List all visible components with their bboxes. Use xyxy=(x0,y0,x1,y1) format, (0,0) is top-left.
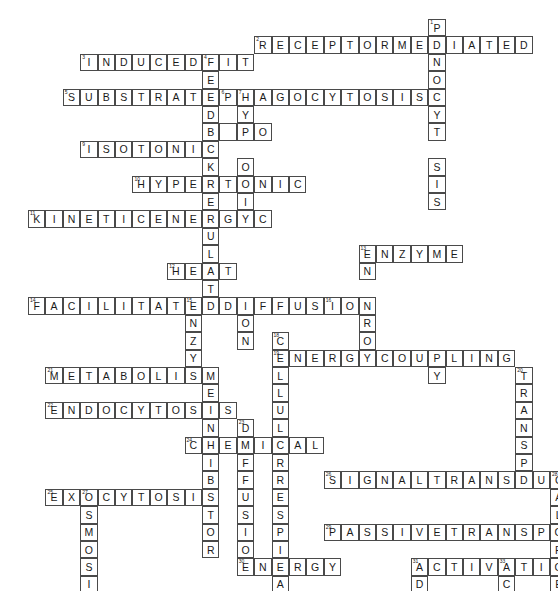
crossword-cell[interactable]: A xyxy=(341,524,358,541)
crossword-cell[interactable]: O xyxy=(359,332,376,349)
crossword-cell[interactable]: R xyxy=(515,384,532,401)
crossword-cell[interactable]: S xyxy=(237,506,254,523)
crossword-cell[interactable]: E xyxy=(185,176,202,193)
crossword-cell[interactable]: S xyxy=(167,489,184,506)
crossword-cell[interactable]: G xyxy=(272,89,289,106)
crossword-cell[interactable]: A xyxy=(150,297,167,314)
crossword-cell[interactable]: P xyxy=(237,123,254,140)
crossword-cell[interactable]: L xyxy=(411,471,428,488)
crossword-cell[interactable]: O xyxy=(80,541,97,558)
crossword-cell[interactable]: C xyxy=(428,89,445,106)
crossword-cell[interactable]: C xyxy=(115,402,132,419)
crossword-cell[interactable]: A xyxy=(45,297,62,314)
crossword-cell[interactable]: E xyxy=(306,350,323,367)
crossword-cell[interactable]: P xyxy=(167,176,184,193)
crossword-cell[interactable]: S xyxy=(185,402,202,419)
crossword-cell[interactable]: M xyxy=(202,367,219,384)
crossword-cell[interactable]: T xyxy=(446,524,463,541)
crossword-cell[interactable]: U xyxy=(289,297,306,314)
crossword-cell[interactable]: O xyxy=(150,489,167,506)
crossword-cell[interactable]: R xyxy=(272,471,289,488)
crossword-cell[interactable]: E xyxy=(202,384,219,401)
crossword-cell[interactable]: N xyxy=(498,524,515,541)
crossword-cell[interactable]: O xyxy=(98,402,115,419)
crossword-cell[interactable]: I xyxy=(533,558,550,575)
crossword-cell[interactable]: C xyxy=(63,297,80,314)
crossword-cell[interactable]: I xyxy=(272,176,289,193)
crossword-cell[interactable]: 11K xyxy=(28,210,45,227)
crossword-cell[interactable]: N xyxy=(480,471,497,488)
crossword-cell[interactable]: N xyxy=(359,263,376,280)
crossword-cell[interactable]: E xyxy=(202,89,219,106)
crossword-cell[interactable]: C xyxy=(202,141,219,158)
crossword-cell[interactable]: R xyxy=(324,350,341,367)
crossword-cell[interactable]: L xyxy=(550,506,558,523)
crossword-cell[interactable]: S xyxy=(272,506,289,523)
crossword-cell[interactable]: U xyxy=(272,402,289,419)
crossword-cell[interactable]: S xyxy=(306,297,323,314)
crossword-cell[interactable]: 30E xyxy=(237,558,254,575)
crossword-cell[interactable]: S xyxy=(80,506,97,523)
crossword-cell[interactable]: S xyxy=(185,367,202,384)
crossword-cell[interactable]: K xyxy=(202,158,219,175)
crossword-cell[interactable]: I xyxy=(185,489,202,506)
crossword-cell[interactable]: T xyxy=(80,367,97,384)
crossword-cell[interactable]: G xyxy=(219,210,236,227)
crossword-cell[interactable]: Y xyxy=(150,176,167,193)
crossword-cell[interactable]: 3I xyxy=(80,54,97,71)
crossword-cell[interactable]: E xyxy=(272,36,289,53)
crossword-cell[interactable]: D xyxy=(185,54,202,71)
crossword-cell[interactable]: O xyxy=(359,89,376,106)
crossword-cell[interactable]: I xyxy=(80,576,97,591)
crossword-cell[interactable]: 29P xyxy=(324,524,341,541)
crossword-cell[interactable]: L xyxy=(202,245,219,262)
crossword-cell[interactable]: R xyxy=(272,454,289,471)
crossword-cell[interactable]: N xyxy=(515,419,532,436)
crossword-cell[interactable]: R xyxy=(550,541,558,558)
crossword-cell[interactable]: I xyxy=(463,350,480,367)
crossword-cell[interactable]: T xyxy=(202,506,219,523)
crossword-cell[interactable]: 15E xyxy=(185,297,202,314)
crossword-cell[interactable]: Y xyxy=(359,350,376,367)
crossword-cell[interactable]: 6P xyxy=(219,89,236,106)
crossword-cell[interactable]: P xyxy=(324,36,341,53)
crossword-cell[interactable]: 27O xyxy=(80,489,97,506)
crossword-cell[interactable]: I xyxy=(272,541,289,558)
crossword-cell[interactable]: G xyxy=(498,350,515,367)
crossword-cell[interactable]: O xyxy=(237,176,254,193)
crossword-cell[interactable]: S xyxy=(219,402,236,419)
crossword-cell[interactable]: I xyxy=(341,471,358,488)
crossword-cell[interactable]: L xyxy=(272,419,289,436)
crossword-cell[interactable]: O xyxy=(550,524,558,541)
crossword-cell[interactable]: P xyxy=(533,524,550,541)
crossword-cell[interactable]: Y xyxy=(237,210,254,227)
crossword-cell[interactable]: R xyxy=(202,541,219,558)
crossword-cell[interactable]: Y xyxy=(324,558,341,575)
crossword-cell[interactable]: I xyxy=(45,210,62,227)
crossword-cell[interactable]: Z xyxy=(393,245,410,262)
crossword-cell[interactable]: 31A xyxy=(411,558,428,575)
crossword-cell[interactable]: A xyxy=(272,576,289,591)
crossword-cell[interactable]: E xyxy=(202,193,219,210)
crossword-cell[interactable]: L xyxy=(272,367,289,384)
crossword-cell[interactable]: E xyxy=(202,71,219,88)
crossword-cell[interactable]: S xyxy=(498,471,515,488)
crossword-cell[interactable]: R xyxy=(446,471,463,488)
crossword-cell[interactable]: R xyxy=(202,176,219,193)
crossword-cell[interactable] xyxy=(219,123,236,140)
crossword-cell[interactable]: R xyxy=(376,36,393,53)
crossword-cell[interactable]: O xyxy=(237,158,254,175)
crossword-cell[interactable]: O xyxy=(550,558,558,575)
crossword-cell[interactable]: I xyxy=(80,297,97,314)
crossword-cell[interactable]: I xyxy=(393,89,410,106)
crossword-cell[interactable]: O xyxy=(150,141,167,158)
crossword-cell[interactable]: E xyxy=(428,524,445,541)
crossword-cell[interactable]: F xyxy=(237,471,254,488)
crossword-cell[interactable]: 4F xyxy=(202,54,219,71)
crossword-cell[interactable]: Y xyxy=(428,106,445,123)
crossword-cell[interactable]: L xyxy=(446,350,463,367)
crossword-cell[interactable]: 21M xyxy=(45,367,62,384)
crossword-cell[interactable]: N xyxy=(428,54,445,71)
crossword-cell[interactable]: Z xyxy=(185,332,202,349)
crossword-cell[interactable]: 20T xyxy=(515,367,532,384)
